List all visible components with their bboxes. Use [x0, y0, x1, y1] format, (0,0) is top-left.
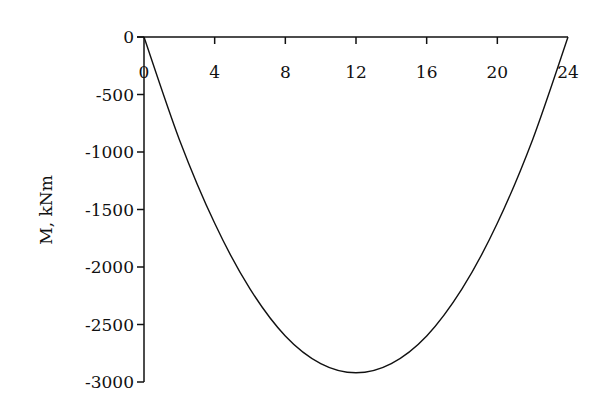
- y-axis: 0-500-1000-1500-2000-2500-3000: [85, 27, 144, 392]
- moment-chart: 0-500-1000-1500-2000-2500-3000 048121620…: [0, 0, 603, 412]
- y-tick-label: 0: [123, 27, 134, 47]
- x-tick-label: 20: [487, 62, 509, 82]
- y-tick-label: -3000: [85, 372, 134, 392]
- series-layer: [144, 37, 568, 373]
- y-tick-label: -1000: [85, 142, 134, 162]
- moment-curve: [144, 37, 568, 373]
- y-axis-title: M, kNm: [36, 175, 56, 245]
- x-tick-label: 12: [345, 62, 367, 82]
- y-tick-label: -1500: [85, 200, 134, 220]
- x-tick-label: 4: [209, 62, 220, 82]
- x-tick-label: 0: [139, 62, 150, 82]
- y-tick-label: -2500: [85, 315, 134, 335]
- y-tick-label: -2000: [85, 257, 134, 277]
- x-axis: 04812162024: [137, 37, 579, 82]
- x-tick-label: 8: [280, 62, 291, 82]
- x-tick-label: 24: [557, 62, 579, 82]
- y-tick-label: -500: [96, 85, 134, 105]
- x-tick-label: 16: [416, 62, 438, 82]
